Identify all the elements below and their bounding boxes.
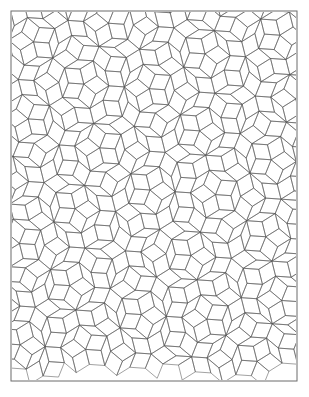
- page-root: [0, 0, 309, 397]
- tiling-artboard: [0, 0, 309, 397]
- page-background: [0, 0, 309, 397]
